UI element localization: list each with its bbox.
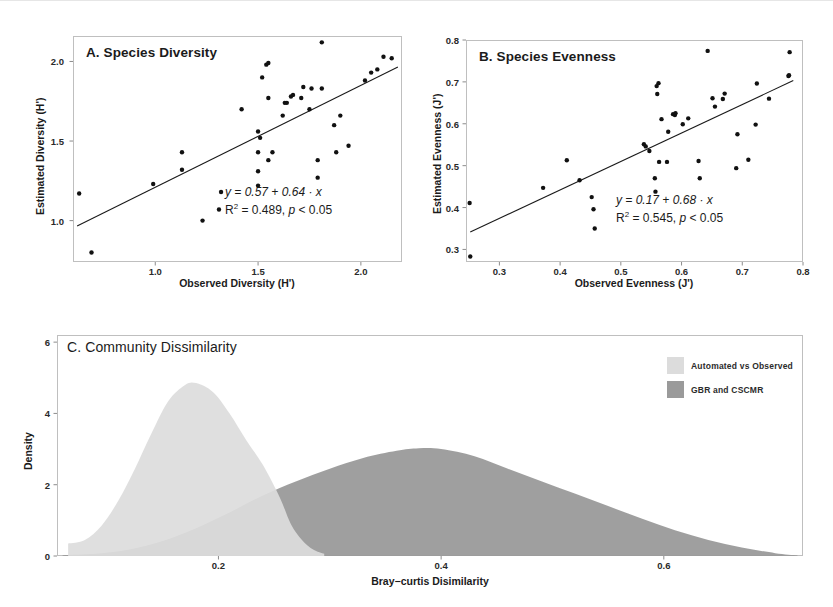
tCy-tick-2: 4 [0,408,50,419]
panel-a-plot [73,36,402,262]
panel-b-equation: y = 0.17 + 0.68 · x R2 = 0.545, p < 0.05 [616,192,723,228]
legend-label-gbr-and-cscmr: GBR and CSCMR [691,385,764,395]
figure-canvas: A. Species Diversity y = 0.57 + 0.64 · x… [0,0,833,607]
tAx-tick-1: 1.5 [251,266,264,277]
tCy-tick-1: 2 [0,479,50,490]
tCx-tick-1: 0.4 [435,560,448,571]
tBy-tick-3: 0.6 [0,118,459,129]
panel-c-legend: Automated vs Observed GBR and CSCMR [667,357,793,405]
legend-swatch-automated-vs-observed [667,357,684,374]
panel-a-yaxis-label: Estimated Diversity (H') [34,98,46,215]
panel-a-species-diversity: A. Species Diversity y = 0.57 + 0.64 · x… [73,36,402,262]
tBy-tick-4: 0.7 [0,76,459,87]
tBx-tick-4: 0.7 [736,266,749,277]
tBx-tick-2: 0.5 [614,266,627,277]
tBy-tick-5: 0.8 [0,35,459,46]
page-top-rule [0,0,833,1]
tAy-tick-0: 1.0 [0,215,64,226]
tBy-tick-1: 0.4 [0,202,459,213]
panel-a-title: A. Species Diversity [86,45,217,60]
tBx-tick-3: 0.6 [675,266,688,277]
panel-b-plot [466,40,803,262]
tAx-tick-2: 2.0 [354,266,367,277]
panel-b-eq-line1: y = 0.17 + 0.68 · x [616,192,723,209]
panel-c-community-dissimilarity: C. Community Dissimilarity Automated vs … [57,335,803,556]
tAy-tick-1: 1.5 [0,136,64,147]
tCx-tick-0: 0.2 [212,560,225,571]
tBy-tick-2: 0.5 [0,160,459,171]
panel-b-xaxis-label: Observed Evenness (J') [575,277,694,289]
tCy-tick-3: 6 [0,337,50,348]
tBx-tick-5: 0.8 [796,266,809,277]
panel-a-eq-line1: y = 0.57 + 0.64 · x [225,184,332,201]
tBx-tick-1: 0.4 [554,266,567,277]
tBx-tick-0: 0.3 [493,266,506,277]
panel-b-title: B. Species Evenness [479,49,616,64]
panel-c-title: C. Community Dissimilarity [67,339,237,355]
legend-swatch-gbr-and-cscmr [667,381,684,398]
tCy-tick-0: 0 [0,551,50,562]
legend-item-automated-vs-observed[interactable]: Automated vs Observed [667,357,793,374]
panel-b-eq-line2: R2 = 0.545, p < 0.05 [616,209,723,227]
panel-c-yaxis-label: Density [22,432,34,470]
tCx-tick-2: 0.6 [657,560,670,571]
panel-b-species-evenness: B. Species Evenness y = 0.17 + 0.68 · x … [466,40,803,262]
tAx-tick-0: 1.0 [149,266,162,277]
tAy-tick-2: 2.0 [0,56,64,67]
panel-b-yaxis-label: Estimated Evenness (J') [431,94,443,214]
tBy-tick-0: 0.3 [0,244,459,255]
legend-item-gbr-and-cscmr[interactable]: GBR and CSCMR [667,381,793,398]
panel-a-xaxis-label: Observed Diversity (H') [179,277,295,289]
legend-label-automated-vs-observed: Automated vs Observed [691,361,793,371]
panel-c-xaxis-label: Bray−curtis Disimilarity [371,575,489,587]
